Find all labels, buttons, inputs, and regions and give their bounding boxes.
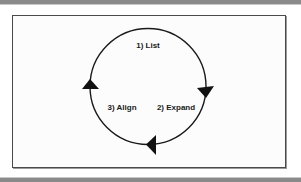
arrow-up-icon: [82, 79, 99, 89]
step-label-expand: 2) Expand: [157, 103, 195, 112]
arrow-left-icon: [146, 135, 156, 155]
bottom-rule: [0, 177, 301, 182]
arrow-down-icon: [197, 86, 214, 98]
step-label-align: 3) Align: [107, 103, 136, 112]
step-label-list: 1) List: [136, 41, 160, 50]
cycle-diagram: [0, 0, 301, 182]
